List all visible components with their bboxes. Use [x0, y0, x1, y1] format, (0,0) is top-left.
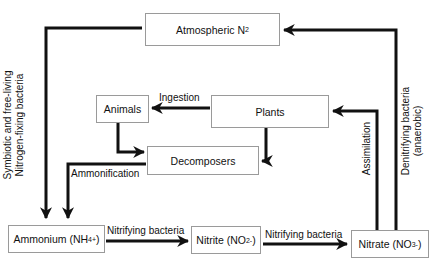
nitrite-box: Nitrite (NO2-)	[191, 226, 261, 254]
denitrifying-label-line2: (anaerobic)	[412, 71, 424, 191]
nitrate-box: Nitrate (NO3-)	[351, 230, 429, 258]
nitrate-close: )	[418, 238, 422, 250]
fixation-arrow	[46, 28, 142, 218]
animals-label: Animals	[104, 103, 141, 115]
nitrate-label: Nitrate (NO	[359, 238, 412, 250]
assimilation-label: Assimilation	[361, 109, 374, 189]
animals-to-decomposers-arrow	[118, 123, 144, 152]
nitrifying-bacteria-label-2: Nitrifying bacteria	[265, 229, 342, 240]
denitrifying-label: Denitrifying bacteria (anaerobic)	[400, 71, 426, 191]
atmospheric-n2-subscript: 2	[245, 26, 249, 33]
denitrifying-label-line1: Denitrifying bacteria	[400, 71, 412, 191]
assimilation-label-text: Assimilation	[361, 109, 373, 189]
fixation-label-line2: Nitrogen-fixing bacteria	[14, 55, 26, 195]
ammonification-label: Ammonification	[71, 168, 139, 179]
nitrite-close: )	[252, 234, 256, 246]
nitrite-label: Nitrite (NO	[196, 234, 246, 246]
atmospheric-n2-box: Atmospheric N2	[145, 13, 280, 46]
plants-box: Plants	[211, 95, 329, 128]
ammonium-close: )	[96, 233, 100, 245]
ingestion-label: Ingestion	[159, 92, 200, 103]
decomposers-label: Decomposers	[171, 155, 236, 167]
ammonium-label: Ammonium (NH	[13, 233, 88, 245]
ammonium-box: Ammonium (NH4+)	[8, 225, 105, 253]
plants-label: Plants	[255, 106, 284, 118]
fixation-label-line1: Symbiotic and free-living	[2, 55, 14, 195]
denitrification-arrow	[284, 30, 396, 230]
decomposers-box: Decomposers	[147, 146, 259, 175]
plants-to-decomposers-arrow	[262, 128, 266, 161]
animals-box: Animals	[96, 95, 149, 123]
atmospheric-n2-label: Atmospheric N	[176, 24, 245, 36]
nitrifying-bacteria-label-1: Nitrifying bacteria	[107, 225, 184, 236]
fixation-label: Symbiotic and free-living Nitrogen-fixin…	[2, 55, 28, 195]
